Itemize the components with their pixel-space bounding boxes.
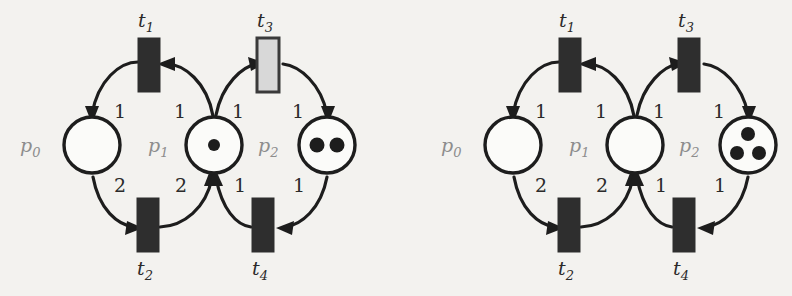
petri-net-right: t1 t2 t3 t4 p0 p1 p2 1 1 2 2 (441, 9, 776, 283)
transition-label-t1: t1 (138, 9, 154, 35)
place-label-p0: p0 (20, 134, 40, 160)
place-p2[interactable] (720, 117, 776, 173)
place-label-p1: p1 (569, 134, 589, 160)
arc-weight-p1-t1: 1 (174, 100, 186, 122)
arc-weight-p2-t4: 1 (293, 174, 305, 196)
transition-label-t3: t3 (678, 9, 694, 35)
arc-weight-p0-t2: 2 (114, 174, 126, 196)
place-label-p2: p2 (679, 134, 699, 160)
token (730, 146, 744, 160)
transition-t4[interactable] (673, 198, 695, 252)
arc-weight-t3-p2: 1 (292, 100, 304, 122)
transition-t2[interactable] (558, 198, 580, 252)
arc-p2-to-t4 (285, 177, 327, 227)
transition-label-t4: t4 (673, 257, 689, 283)
transition-label-t2: t2 (137, 257, 153, 283)
token (310, 138, 325, 153)
arc-weight-p1-t1: 1 (595, 100, 607, 122)
transition-t2[interactable] (137, 198, 159, 252)
arc-weight-t2-p1: 2 (175, 174, 187, 196)
place-label-p2: p2 (258, 134, 278, 160)
transition-label-t3: t3 (257, 9, 273, 35)
arc-weight-t4-p1: 1 (234, 174, 246, 196)
place-label-p1: p1 (148, 134, 168, 160)
figure-canvas: t1 t2 t3 t4 p0 p1 p2 1 1 2 (0, 0, 792, 296)
arc-t3-to-p2 (704, 64, 748, 114)
token (752, 146, 766, 160)
arc-weight-t1-p0: 1 (114, 100, 126, 122)
arc-weight-p0-t2: 2 (535, 174, 547, 196)
place-label-p0: p0 (441, 134, 461, 160)
arc-p2-to-t4 (706, 177, 748, 227)
place-p2[interactable] (299, 117, 355, 173)
place-p1[interactable] (607, 117, 663, 173)
place-p0[interactable] (64, 117, 120, 173)
arc-weight-t4-p1: 1 (655, 174, 667, 196)
transition-t3[interactable] (257, 38, 279, 92)
token (330, 138, 345, 153)
arc-weight-t2-p1: 2 (596, 174, 608, 196)
tokens-p1 (208, 139, 220, 151)
petri-net-figure: t1 t2 t3 t4 p0 p1 p2 1 1 2 (0, 0, 792, 296)
transition-label-t1: t1 (559, 9, 575, 35)
arc-weight-t1-p0: 1 (535, 100, 547, 122)
transition-t1[interactable] (559, 38, 581, 92)
transition-label-t2: t2 (558, 257, 574, 283)
arrowhead-p2-to-t4 (697, 221, 715, 235)
transition-t4[interactable] (252, 198, 274, 252)
place-p0[interactable] (485, 117, 541, 173)
arc-weight-p1-t3: 1 (653, 100, 665, 122)
arc-weight-t3-p2: 1 (713, 100, 725, 122)
arc-weight-p1-t3: 1 (232, 100, 244, 122)
arc-weight-p2-t4: 1 (714, 174, 726, 196)
token (208, 139, 220, 151)
arc-t3-to-p2 (283, 64, 327, 114)
transition-label-t4: t4 (252, 257, 268, 283)
arrowhead-p2-to-t4 (276, 221, 294, 235)
transition-t3[interactable] (678, 38, 700, 92)
token (741, 127, 755, 141)
transition-t1[interactable] (138, 38, 160, 92)
petri-net-left: t1 t2 t3 t4 p0 p1 p2 1 1 2 (20, 9, 355, 283)
